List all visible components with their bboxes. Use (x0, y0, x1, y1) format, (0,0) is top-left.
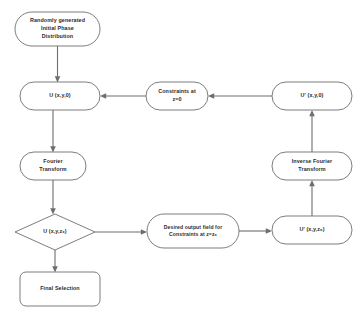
edge-desired-to-uprimez0 (239, 228, 272, 234)
node-shape-uprime-xyz0[interactable] (272, 216, 352, 244)
edge-u-to-fourier (50, 110, 56, 153)
node-shape-start[interactable] (15, 12, 100, 46)
edge-start-to-u (55, 46, 61, 83)
edge-uz0-to-final (52, 250, 58, 273)
flowchart-diagram: Randomly generated Initial Phase Distrib… (0, 0, 354, 319)
edge-uz0-to-desired (95, 229, 147, 235)
node-shape-inverse-fourier[interactable] (272, 152, 352, 180)
node-shape-fourier[interactable] (20, 152, 86, 180)
node-shape-u-xyz0-decision[interactable] (15, 214, 95, 250)
edge-uprime0-to-constraints (208, 93, 272, 99)
edge-constraints-to-u (100, 93, 146, 99)
edge-fourier-to-uz0 (50, 180, 56, 215)
node-shape-uprime-xy0[interactable] (272, 82, 352, 110)
edge-inverse-to-uprime0 (309, 110, 315, 152)
node-shape-u-xy0[interactable] (20, 82, 100, 110)
edge-uprimez0-to-inverse (309, 180, 315, 216)
flowchart-canvas (0, 0, 354, 319)
node-shape-final-selection[interactable] (20, 272, 100, 306)
node-shape-desired-output[interactable] (147, 214, 239, 248)
node-shape-constraints-z0[interactable] (146, 82, 208, 110)
